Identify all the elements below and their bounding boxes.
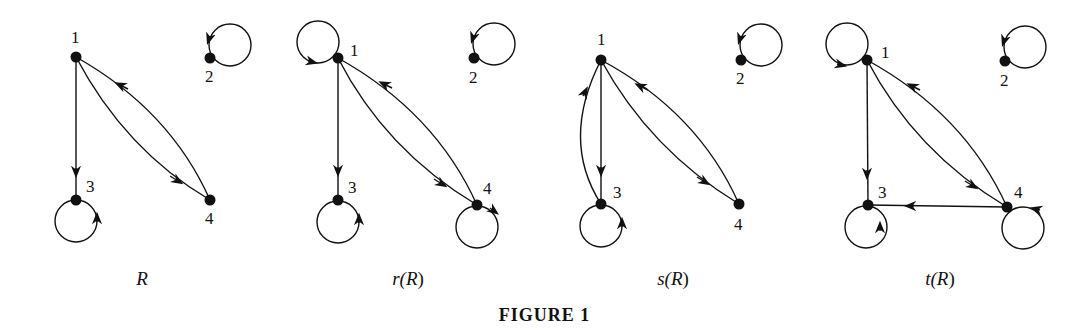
node-4 (1002, 202, 1013, 213)
edge-4-1 (76, 57, 210, 200)
graph-title-tR: t(R) (880, 268, 1000, 290)
node-label-3: 3 (348, 178, 357, 197)
loop-4 (456, 206, 498, 248)
node-1 (71, 52, 82, 63)
edge-1-3 (867, 60, 868, 205)
node-label-4: 4 (1014, 183, 1023, 202)
graph-rR (297, 21, 515, 248)
node-label-4: 4 (483, 179, 492, 198)
edge-4-1 (338, 58, 477, 205)
node-2 (469, 53, 480, 64)
edge-1-4 (867, 60, 1007, 207)
node-2 (1000, 56, 1011, 67)
node-3 (863, 200, 874, 211)
node-2 (205, 53, 216, 64)
figure-caption: FIGURE 1 (0, 305, 1089, 326)
edge-3-1 (581, 60, 602, 204)
node-4 (205, 195, 216, 206)
loop-3 (55, 200, 97, 242)
edge-1-4 (76, 57, 210, 200)
node-label-1: 1 (597, 30, 606, 49)
node-label-2: 2 (736, 69, 745, 88)
node-2 (736, 55, 747, 66)
node-label-3: 3 (86, 177, 95, 196)
graph-tR (826, 23, 1046, 249)
graph-title-rR: r(R) (348, 268, 468, 290)
node-label-1: 1 (350, 41, 359, 60)
node-1 (596, 55, 607, 66)
loop-3 (317, 201, 359, 243)
node-label-4: 4 (205, 209, 214, 228)
loop-4 (1002, 207, 1044, 249)
graph-title-R: R (82, 268, 202, 290)
node-1 (862, 55, 873, 66)
node-3 (596, 199, 607, 210)
node-label-2: 2 (469, 68, 478, 87)
graph-sR (580, 24, 782, 247)
figure-1: 1 2 3 4 1 2 3 4 (0, 0, 1089, 335)
loop-2 (209, 24, 251, 66)
node-label-3: 3 (613, 183, 622, 202)
node-label-2: 2 (1000, 71, 1009, 90)
node-label-4: 4 (734, 215, 743, 234)
loop-3 (580, 205, 622, 247)
node-4 (734, 199, 745, 210)
edge-1-4 (601, 60, 739, 204)
node-3 (333, 195, 344, 206)
node-4 (472, 200, 483, 211)
node-label-1: 1 (71, 28, 80, 47)
edge-4-3 (868, 205, 1007, 207)
graph-R (55, 24, 251, 242)
graph-title-sR: s(R) (613, 268, 733, 290)
node-label-1: 1 (881, 43, 890, 62)
node-label-2: 2 (205, 67, 214, 86)
edge-4-1 (601, 60, 739, 204)
node-1 (333, 53, 344, 64)
node-3 (71, 195, 82, 206)
node-label-3: 3 (878, 183, 887, 202)
edge-1-4 (338, 58, 477, 205)
graphs-canvas: 1 2 3 4 1 2 3 4 (0, 0, 1089, 300)
edge-4-1 (867, 60, 1007, 207)
